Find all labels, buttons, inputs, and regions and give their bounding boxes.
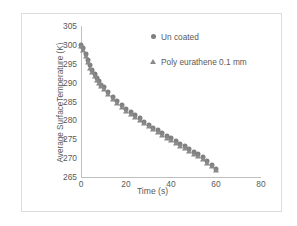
y-tick-300: 300 [63,40,77,50]
x-tick-0: 0 [79,179,84,189]
data-point [80,48,86,53]
y-tick-275: 275 [63,134,77,144]
legend-item-uncoated: Un coated [148,30,280,43]
x-tick-40: 40 [166,179,175,189]
y-tick-295: 295 [63,59,77,69]
x-tick-80: 80 [256,179,265,189]
data-point [213,168,219,173]
y-tick-285: 285 [63,97,77,107]
figure-container: Average SurfaceTemperature (K) Time (s) … [0,0,297,226]
x-tick-60: 60 [211,179,220,189]
legend-label-polyeurathene: Poly eurathene 0.1 mm [161,57,247,67]
x-axis-line [81,177,261,178]
chart-frame: Average SurfaceTemperature (K) Time (s) … [21,13,282,212]
circle-marker-icon [148,34,158,39]
y-tick-305: 305 [63,21,77,31]
legend-label-uncoated: Un coated [161,32,199,42]
triangle-marker-icon [148,59,158,64]
x-tick-20: 20 [121,179,130,189]
legend-item-polyeurathene: Poly eurathene 0.1 mm [148,55,280,68]
y-tick-265: 265 [63,172,77,182]
x-axis-title: Time (s) [22,186,283,196]
data-point [85,60,91,65]
y-tick-270: 270 [63,153,77,163]
y-tick-290: 290 [63,78,77,88]
chart-legend: Un coated Poly eurathene 0.1 mm [148,30,280,80]
data-point [83,54,89,59]
data-point [101,87,107,92]
y-tick-280: 280 [63,115,77,125]
